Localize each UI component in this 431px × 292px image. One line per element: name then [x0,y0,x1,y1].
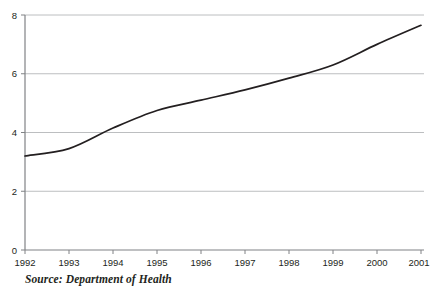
data-series-line [25,25,421,156]
x-tick-label-2000: 2000 [366,257,387,268]
x-axis-tick-labels: 1992 1993 1994 1995 1996 1997 1998 1999 … [14,257,429,268]
x-tick-label-2001: 2001 [408,257,429,268]
x-tick-label-1995: 1995 [146,257,167,268]
gridlines [25,15,424,191]
x-tick-label-1992: 1992 [14,257,35,268]
x-tick-label-1994: 1994 [102,257,123,268]
line-chart-canvas: 8 6 4 2 0 1992 1993 1994 1995 1996 1997 … [0,0,431,292]
x-tick-label-1999: 1999 [322,257,343,268]
y-tick-label-4: 4 [12,127,17,138]
y-tick-label-2: 2 [12,186,17,197]
x-tick-label-1998: 1998 [278,257,299,268]
chart-figure: 8 6 4 2 0 1992 1993 1994 1995 1996 1997 … [0,0,431,292]
x-tick-label-1993: 1993 [58,257,79,268]
source-note: Source: Department of Health [25,273,172,285]
y-tick-label-8: 8 [12,10,17,21]
x-tick-marks [25,250,421,254]
x-tick-label-1997: 1997 [234,257,255,268]
y-tick-label-6: 6 [12,68,17,79]
y-axis-tick-labels: 8 6 4 2 0 [12,10,17,256]
y-tick-label-0: 0 [12,245,17,256]
x-tick-label-1996: 1996 [190,257,211,268]
